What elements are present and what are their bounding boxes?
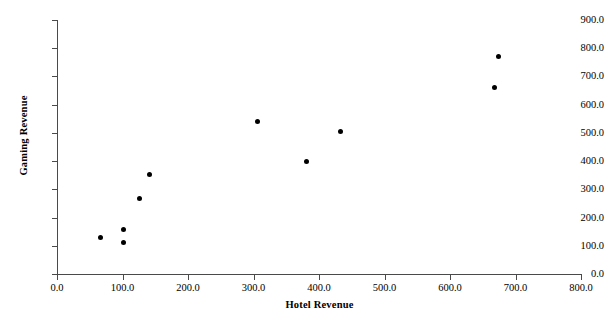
x-axis-tick bbox=[123, 275, 124, 280]
x-axis-tick bbox=[581, 275, 582, 280]
x-axis-tick-label: 200.0 bbox=[158, 282, 218, 293]
x-axis-title: Hotel Revenue bbox=[57, 299, 582, 310]
y-axis-tick-label: 200.0 bbox=[558, 212, 604, 223]
x-axis-tick bbox=[319, 275, 320, 280]
y-axis-tick bbox=[52, 48, 57, 49]
x-axis-tick-label: 800.0 bbox=[551, 282, 609, 293]
y-axis-tick bbox=[52, 20, 57, 21]
y-axis-title: Gaming Revenue bbox=[18, 66, 29, 206]
y-axis-tick-label: 400.0 bbox=[558, 155, 604, 166]
y-axis-tick bbox=[52, 133, 57, 134]
data-point bbox=[496, 54, 501, 59]
data-point bbox=[492, 85, 497, 90]
y-axis-tick-label: 800.0 bbox=[558, 42, 604, 53]
data-point bbox=[304, 159, 309, 164]
x-axis-tick bbox=[385, 275, 386, 280]
x-axis-tick-label: 500.0 bbox=[355, 282, 415, 293]
y-axis-tick-label: 300.0 bbox=[558, 183, 604, 194]
y-axis-tick bbox=[52, 161, 57, 162]
x-axis-tick-label: 400.0 bbox=[289, 282, 349, 293]
x-axis-tick bbox=[188, 275, 189, 280]
data-point bbox=[121, 227, 126, 232]
data-point bbox=[147, 172, 152, 177]
data-point bbox=[255, 119, 260, 124]
data-point bbox=[338, 129, 343, 134]
data-point bbox=[98, 235, 103, 240]
y-axis-tick-label: 900.0 bbox=[558, 14, 604, 25]
x-axis-tick-label: 600.0 bbox=[420, 282, 480, 293]
data-point bbox=[121, 240, 126, 245]
x-axis-tick bbox=[254, 275, 255, 280]
y-axis-tick-label: 700.0 bbox=[558, 70, 604, 81]
y-axis-tick bbox=[52, 246, 57, 247]
x-axis-tick-label: 100.0 bbox=[93, 282, 153, 293]
y-axis-tick-label: 500.0 bbox=[558, 127, 604, 138]
y-axis-tick bbox=[52, 218, 57, 219]
y-axis-tick bbox=[52, 105, 57, 106]
x-axis-tick bbox=[450, 275, 451, 280]
x-axis-tick bbox=[57, 275, 58, 280]
y-axis-tick-label: 600.0 bbox=[558, 99, 604, 110]
x-axis-tick bbox=[516, 275, 517, 280]
data-point bbox=[137, 196, 142, 201]
x-axis-tick-label: 0.0 bbox=[27, 282, 87, 293]
x-axis-tick-label: 700.0 bbox=[486, 282, 546, 293]
y-axis-tick bbox=[52, 76, 57, 77]
y-axis-tick-label: 100.0 bbox=[558, 240, 604, 251]
y-axis-line bbox=[57, 20, 58, 275]
x-axis-tick-label: 300.0 bbox=[224, 282, 284, 293]
y-axis-tick bbox=[52, 189, 57, 190]
